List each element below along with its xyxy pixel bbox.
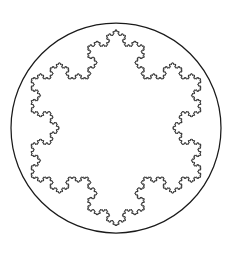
- fractal-figure-svg: [0, 0, 232, 253]
- bounding-circle: [11, 23, 221, 233]
- koch-snowflake-path: [31, 30, 201, 226]
- figure-canvas: [0, 0, 232, 253]
